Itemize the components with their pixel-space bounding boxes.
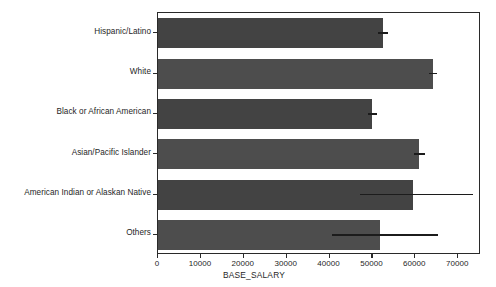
error-bar	[360, 194, 474, 196]
y-axis-title: RACE	[2, 0, 16, 28]
y-axis-tick-label: American Indian or Alaskan Native	[0, 188, 151, 197]
plot-area	[157, 12, 480, 254]
x-axis-title: BASE_SALARY	[0, 270, 496, 280]
x-axis-tick-mark	[414, 254, 415, 258]
bar	[158, 99, 372, 129]
x-axis-tick-mark	[371, 254, 372, 258]
bar-row	[158, 139, 481, 169]
x-axis-tick-label: 0	[155, 259, 160, 268]
x-axis-tick-mark	[329, 254, 330, 258]
bar	[158, 59, 433, 89]
bar-row	[158, 59, 481, 89]
bar-row	[158, 180, 481, 210]
x-axis-tick-label: 70000	[446, 259, 469, 268]
y-axis-tick-label: White	[0, 67, 151, 76]
bar-row	[158, 18, 481, 48]
x-axis-tick-mark	[157, 254, 158, 258]
bar	[158, 139, 419, 169]
error-bar	[378, 32, 389, 34]
error-bar	[429, 73, 437, 75]
error-bar	[368, 113, 377, 115]
x-axis-tick-label: 60000	[403, 259, 426, 268]
bar-row	[158, 220, 481, 250]
error-bar	[332, 234, 438, 236]
chart-figure: RACE Hispanic/LatinoWhiteBlack or Africa…	[0, 0, 496, 287]
y-axis-tick-label: Black or African American	[0, 107, 151, 116]
x-axis-title-text: BASE_SALARY	[223, 270, 285, 280]
y-axis-tick-label: Others	[0, 228, 151, 237]
x-axis-tick-label: 50000	[360, 259, 383, 268]
bar-row	[158, 99, 481, 129]
x-axis-tick-mark	[243, 254, 244, 258]
bar	[158, 18, 383, 48]
x-axis-tick-label: 30000	[274, 259, 297, 268]
x-axis-tick-label: 10000	[189, 259, 212, 268]
x-axis-tick-mark	[286, 254, 287, 258]
y-axis-tick-label: Hispanic/Latino	[0, 27, 151, 36]
x-axis-tick-mark	[457, 254, 458, 258]
x-axis-tick-mark	[200, 254, 201, 258]
y-axis-tick-label: Asian/Pacific Islander	[0, 148, 151, 157]
x-axis-tick-label: 20000	[232, 259, 255, 268]
x-axis-tick-label: 40000	[317, 259, 340, 268]
error-bar	[414, 153, 425, 155]
